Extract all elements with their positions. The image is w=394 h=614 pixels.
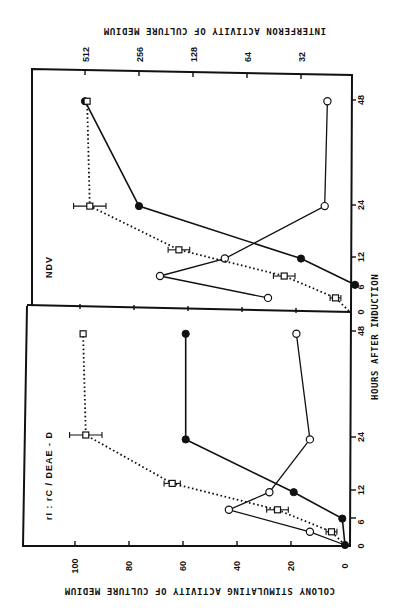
ndv-panel-frame	[32, 69, 352, 312]
time-tick-labels: 48 24 12 6 0 48 24 12 6 0	[356, 95, 366, 549]
square-marker	[87, 203, 93, 209]
filled-circle-marker	[351, 281, 358, 288]
ndv-panel-label: NDV	[44, 256, 54, 278]
series-line-open-circle	[229, 334, 345, 545]
interferon-tick-labels: 512 256 128 64 32	[81, 47, 307, 62]
open-circle-marker	[306, 528, 313, 535]
tick-label-256: 256	[135, 47, 145, 62]
square-marker	[80, 331, 86, 337]
time-axis-title: HOURS AFTER INDUCTION	[370, 274, 380, 400]
csa-tick-labels: 100 80 60 40 20 0	[70, 558, 350, 573]
tick-label-20: 20	[286, 561, 296, 571]
open-circle-marker	[293, 330, 300, 337]
filled-circle-marker	[135, 203, 142, 210]
square-marker	[169, 480, 175, 486]
tick-label-128: 128	[189, 47, 199, 62]
square-marker	[281, 273, 287, 279]
interferon-axis-title: INTERFERON ACTIVITY OF CULTURE MEDIUM	[103, 26, 326, 36]
square-marker	[333, 295, 339, 301]
series-line-open-square	[87, 101, 349, 311]
series-line-filled-circle	[85, 101, 355, 285]
filled-circle-marker	[182, 330, 189, 337]
ndv-plot-area	[74, 98, 359, 311]
open-circle-marker	[156, 272, 163, 279]
filled-circle-marker	[297, 255, 304, 262]
filled-circle-marker	[290, 489, 297, 496]
time-label-0-ric: 0	[356, 543, 366, 548]
open-circle-marker	[264, 294, 271, 301]
filled-circle-marker	[182, 436, 189, 443]
square-marker	[84, 98, 90, 104]
time-label-12-ndv: 12	[356, 252, 366, 262]
square-marker	[83, 432, 89, 438]
tick-label-60: 60	[178, 561, 188, 571]
tick-label-100: 100	[70, 558, 80, 573]
tick-label-40: 40	[232, 561, 242, 571]
tick-label-32: 32	[297, 52, 307, 62]
ric-panel-label: rI : rC / DEAE - D	[44, 431, 54, 520]
time-label-0-ndv: 0	[356, 309, 366, 314]
csa-axis-title: COLONY STIMULATING ACTIVITY OF CULTURE M…	[64, 586, 335, 596]
ric-plot-area	[70, 330, 349, 548]
time-label-24-ndv: 24	[356, 200, 366, 210]
tick-label-0-csa: 0	[340, 563, 350, 568]
time-label-24-ric: 24	[356, 432, 366, 442]
time-label-6-ric: 6	[356, 519, 366, 524]
ric-panel-frame	[23, 306, 351, 546]
time-label-48-ndv: 48	[356, 95, 366, 105]
tick-label-512: 512	[81, 47, 91, 62]
open-circle-marker	[306, 436, 313, 443]
open-circle-marker	[225, 506, 232, 513]
series-line-filled-circle	[186, 334, 345, 545]
panel-divider	[27, 305, 351, 312]
filled-circle-marker	[339, 515, 346, 522]
divider-ticks	[80, 304, 296, 313]
time-label-12-ric: 12	[356, 485, 366, 495]
square-marker	[275, 507, 281, 513]
open-circle-marker	[321, 203, 328, 210]
figure: INTERFERON ACTIVITY OF CULTURE MEDIUM CO…	[0, 0, 394, 614]
tick-label-80: 80	[124, 561, 134, 571]
time-label-48-ric: 48	[356, 326, 366, 336]
open-circle-marker	[324, 98, 331, 105]
square-marker	[329, 529, 335, 535]
series-line-open-circle	[160, 101, 327, 298]
tick-label-64: 64	[243, 52, 253, 62]
open-circle-marker	[266, 489, 273, 496]
square-marker	[176, 247, 182, 253]
